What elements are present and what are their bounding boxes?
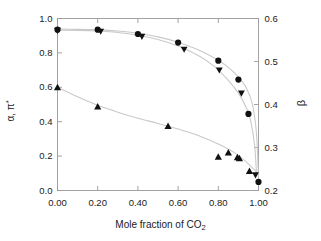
y-left-tick-label-3: 0.6 bbox=[13, 81, 53, 92]
fit-curve-0 bbox=[58, 29, 259, 180]
x-axis-label-text: Mole fraction of CO bbox=[115, 219, 201, 230]
data-point-series0-7 bbox=[255, 179, 261, 185]
y-right-tick-label-4: 0.6 bbox=[265, 13, 278, 24]
fit-curve-2 bbox=[58, 87, 259, 174]
y-left-tick-label-5: 1.0 bbox=[13, 13, 53, 24]
y-right-tick-label-2: 0.4 bbox=[265, 99, 278, 110]
data-point-series0-5 bbox=[235, 76, 241, 82]
y-right-tick-label-0: 0.2 bbox=[265, 185, 278, 196]
data-point-series0-3 bbox=[175, 39, 181, 45]
x-axis-label: Mole fraction of CO2 bbox=[0, 219, 321, 232]
y-left-tick-label-0: 0.0 bbox=[13, 185, 53, 196]
data-point-series2-7 bbox=[246, 168, 253, 174]
x-tick-label-4: 0.80 bbox=[196, 197, 240, 208]
x-tick-label-5: 1.00 bbox=[237, 197, 281, 208]
y-left-tick-label-1: 0.2 bbox=[13, 150, 53, 161]
y-axis-left-label-superscript: * bbox=[4, 100, 13, 103]
x-tick-label-3: 0.60 bbox=[156, 197, 200, 208]
fit-curve-1 bbox=[58, 30, 257, 173]
data-point-series0-6 bbox=[245, 111, 251, 117]
y-left-tick-label-2: 0.4 bbox=[13, 116, 53, 127]
data-point-series2-3 bbox=[215, 153, 222, 159]
x-tick-label-2: 0.40 bbox=[116, 197, 160, 208]
y-axis-right-label: β bbox=[295, 83, 307, 123]
data-point-series0-4 bbox=[215, 58, 221, 64]
chart-figure: Mole fraction of CO2 α, π* β 0.000.200.4… bbox=[0, 0, 321, 241]
y-right-tick-label-1: 0.3 bbox=[265, 142, 278, 153]
y-right-tick-label-3: 0.5 bbox=[265, 56, 278, 67]
y-left-tick-label-4: 0.8 bbox=[13, 47, 53, 58]
x-tick-label-0: 0.00 bbox=[36, 197, 80, 208]
x-tick-label-1: 0.20 bbox=[76, 197, 120, 208]
plot-frame bbox=[58, 19, 259, 191]
x-axis-label-subscript: 2 bbox=[201, 223, 205, 232]
